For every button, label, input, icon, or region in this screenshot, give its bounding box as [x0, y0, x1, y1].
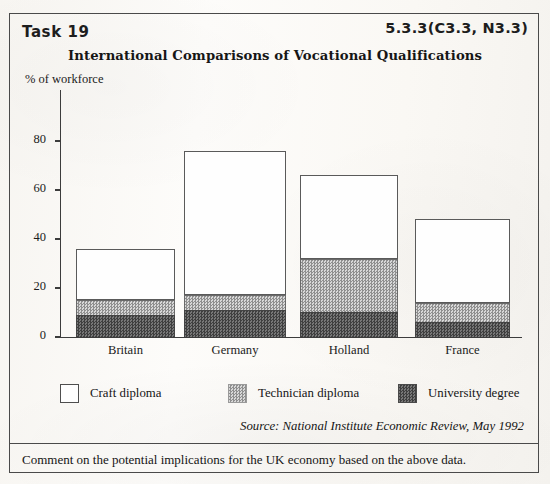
y-tick-label-text: 20: [34, 279, 47, 294]
legend-item: University degree: [398, 384, 519, 403]
legend-label: Craft diploma: [90, 386, 161, 401]
y-axis-label: % of workforce: [25, 72, 103, 87]
y-tick-mark: [55, 238, 60, 239]
stacked-bar: [415, 219, 510, 337]
legend-label: Technician diploma: [258, 386, 359, 401]
bar-segment-technician-diploma: [76, 300, 175, 315]
y-tick-label-text: 80: [34, 132, 47, 147]
chart-title: International Comparisons of Vocational …: [0, 48, 550, 63]
stacked-bar: [184, 151, 286, 337]
bar-segment-university-degree: [415, 322, 510, 337]
legend-item: Craft diploma: [60, 384, 161, 403]
bar-segment-university-degree: [184, 310, 286, 337]
y-tick-label-text: 0: [40, 328, 46, 343]
y-tick-mark: [55, 336, 60, 337]
x-axis-category-label: France: [445, 343, 479, 358]
chart-legend: Craft diplomaTechnician diplomaUniversit…: [60, 384, 530, 408]
legend-swatch-tech: [228, 384, 247, 403]
bar-segment-craft-diploma: [300, 175, 398, 258]
chart-source: Source: National Institute Economic Revi…: [240, 419, 524, 434]
task-code: 5.3.3(C3.3, N3.3): [385, 20, 528, 36]
y-tick-mark: [55, 140, 60, 141]
legend-swatch-craft: [60, 384, 79, 403]
y-tick-label-text: 60: [34, 181, 47, 196]
section-divider: [10, 443, 539, 444]
y-tick-label-text: 40: [34, 230, 47, 245]
stacked-bar: [300, 175, 398, 337]
bar-segment-craft-diploma: [76, 249, 175, 300]
stacked-bar: [76, 249, 175, 337]
bar-segment-technician-diploma: [184, 295, 286, 310]
legend-item: Technician diploma: [228, 384, 359, 403]
x-axis-category-label: Germany: [212, 343, 259, 358]
bar-segment-university-degree: [300, 312, 398, 337]
bar-segment-university-degree: [76, 315, 175, 337]
bar-segment-craft-diploma: [415, 219, 510, 302]
x-axis-category-label: Holland: [329, 343, 370, 358]
legend-label: University degree: [428, 386, 519, 401]
legend-swatch-univ: [398, 384, 417, 403]
task-label: Task 19: [22, 23, 90, 41]
y-tick-mark: [55, 287, 60, 288]
bar-segment-craft-diploma: [184, 151, 286, 296]
bar-segment-technician-diploma: [415, 303, 510, 323]
y-axis-line: [60, 90, 61, 338]
bar-segment-technician-diploma: [300, 259, 398, 313]
x-axis-category-label: Britain: [108, 343, 143, 358]
y-tick-mark: [55, 189, 60, 190]
task-question-text: Comment on the potential implications fo…: [22, 452, 466, 468]
